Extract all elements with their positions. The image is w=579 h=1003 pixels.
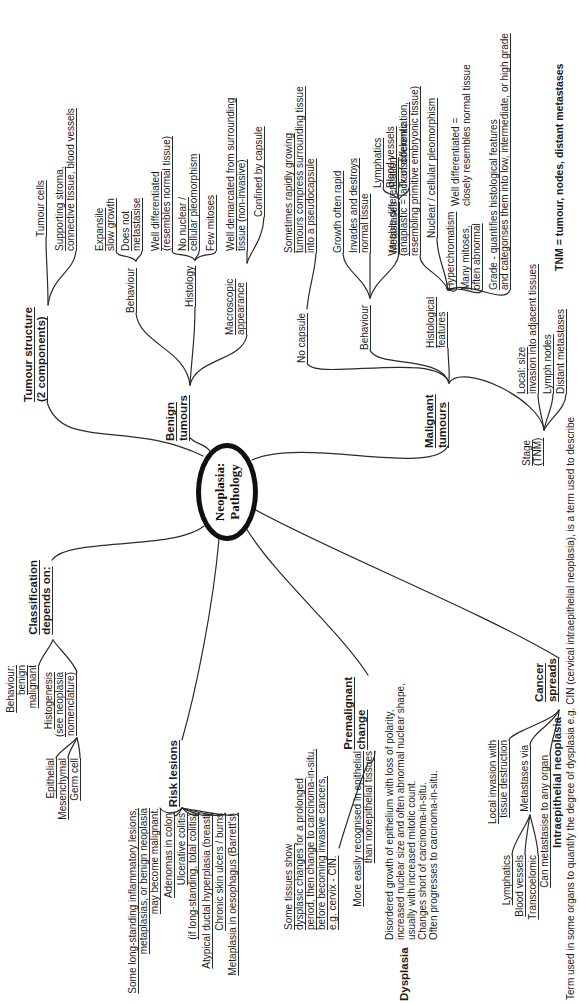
node-spread-transcoelomic: Transcoelomic xyxy=(527,855,538,920)
node-atypical-ductal-hyperplasia: Atypical ductal hyperplasia (breast) xyxy=(201,813,212,969)
note-pseudocapsule: Sometimes rapidly growing tumours compre… xyxy=(283,86,316,253)
node-stage-tnm: Stage (TNM) xyxy=(521,438,543,466)
node-nuclear-pleomorphism: Nuclear / cellular pleomorphism xyxy=(426,98,437,238)
branch-malignant-tumours: Malignant tumours xyxy=(423,394,449,448)
node-adenomas-colon: Adenomas in colon xyxy=(163,813,174,898)
node-metastases-via: Metastases via xyxy=(519,745,530,812)
node-spread-blood-vessels: Blood vessels xyxy=(514,855,525,917)
branch-risk-lesions: Risk lesions xyxy=(167,740,180,807)
note-premalignant: Some tissues show dysplasic changes for … xyxy=(283,749,338,930)
node-distant-metastases: Distant metastases xyxy=(555,309,566,394)
node-benign-histology: Histology xyxy=(184,266,195,307)
node-spread-lymphatics: Lymphatics xyxy=(501,855,512,905)
branch-classification: Classification depends on: xyxy=(27,560,53,635)
text-intraepithelial-definition: Term used in some organs to quantify the… xyxy=(565,417,576,1000)
node-chronic-skin-ulcers: Chronic skin ulcers / burns xyxy=(214,813,225,931)
node-more-easily-recognised: More easily recognised in epithelial tha… xyxy=(352,751,374,907)
node-expansile-growth: Expansile slow growth xyxy=(94,198,116,251)
branch-cancer-spreads: Cancer spreads xyxy=(533,658,559,702)
heading-intraepithelial-neoplasia: Intraepithelial neoplasia xyxy=(551,717,564,848)
node-metastases-lymphatics: Lymphatics xyxy=(372,138,383,188)
node-many-mitoses: Many mitoses, often abnormal xyxy=(460,223,482,290)
text-dysplasia-definition: Disordered growth of epithelium with los… xyxy=(384,683,439,940)
node-tumour-cells: Tumour cells xyxy=(35,180,46,237)
mindmap-canvas: Neoplasia: Pathology Tumour structure (2… xyxy=(0,0,579,1003)
node-growth-rapid: Growth often rapid xyxy=(332,171,343,253)
node-malignant-behaviour: Behaviour xyxy=(359,305,370,350)
node-well-demarcated: Well demarcated from surrounding tissue … xyxy=(225,98,247,251)
node-grade: Grade - quantifies histological features… xyxy=(488,33,510,290)
heading-dysplasia: Dysplasia xyxy=(398,947,411,1001)
node-germ-cell: Germ cell xyxy=(69,758,80,801)
node-no-capsule: No capsule xyxy=(296,313,307,363)
node-local-invasion: Local invasion with tissue destruction xyxy=(487,740,509,824)
node-any-organ: Can metastasise to any organ xyxy=(539,755,550,888)
scanned-page: Neoplasia: Pathology Tumour structure (2… xyxy=(0,0,579,1003)
node-invades-destroys: Invades and destroys normal tissue xyxy=(348,158,370,253)
node-hyperchromatism: Hyperchromatism xyxy=(445,212,456,290)
node-epithelial: Epithelial xyxy=(45,758,56,799)
node-lymph-nodes: Lymph nodes xyxy=(542,334,553,394)
central-topic: Neoplasia: Pathology xyxy=(196,443,258,541)
note-risk-lesions: Some long-standing inflammatory lesions,… xyxy=(127,808,160,994)
node-stage-local: Local: size invasion into adjacent tissu… xyxy=(516,264,538,394)
node-benign-behaviour: Behaviour xyxy=(125,268,136,313)
node-histogenesis: Histogenesis (see neoplasia nomenclature… xyxy=(43,672,76,737)
node-does-not-metastasise: Does not metastasise xyxy=(120,198,142,251)
node-classification-behaviour: Behaviour: benign malignant xyxy=(5,665,38,713)
branch-tumour-structure: Tumour structure (2 components) xyxy=(22,307,48,402)
node-barretts-metaplasia: Metaplasia in oesophagus (Barrett's) xyxy=(227,813,238,976)
node-variable-differentiation: Variable differentiation (anaplastic = l… xyxy=(387,86,420,256)
node-histological-features: Histological features xyxy=(425,297,447,348)
node-no-pleomorphism: No nuclear / cellular pleomorphism xyxy=(177,154,199,251)
node-ulcerative-colitis: Ulcerative colitis (if long-standing, to… xyxy=(176,813,198,940)
node-few-mitoses: Few mitoses xyxy=(205,195,216,251)
branch-premalignant-change: Premalignant change xyxy=(342,677,368,750)
node-supporting-stroma: Supporting stroma, connective tissue, bl… xyxy=(54,108,76,251)
note-tnm-definition: TNM = tumour, nodes, distant metastases xyxy=(554,64,565,271)
note-well-differentiated: Well differentiated = closely resembles … xyxy=(450,64,472,206)
node-mesenchymal: Mesenchymal xyxy=(57,758,68,820)
branch-benign-tumours: Benign tumours xyxy=(164,395,190,441)
node-well-differentiated: Well differentiated (resembles normal ti… xyxy=(150,136,172,251)
node-confined-by-capsule: Confined by capsule xyxy=(253,126,264,217)
node-macroscopic-appearance: Macroscopic appearance xyxy=(224,279,246,335)
